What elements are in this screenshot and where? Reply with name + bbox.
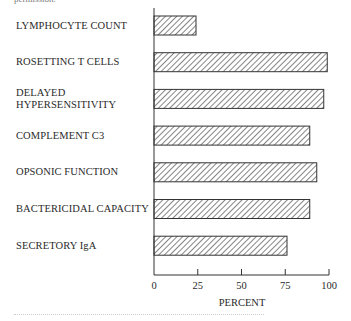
x-tick-label: 50 — [236, 280, 247, 291]
x-tick-label: 100 — [321, 280, 337, 291]
bar — [154, 16, 196, 35]
bar — [154, 89, 324, 108]
bar — [154, 126, 310, 145]
x-tick-label: 75 — [280, 280, 291, 291]
caption-fragment — [14, 314, 264, 318]
x-tick-label: 0 — [151, 280, 156, 291]
x-axis-label: PERCENT — [219, 297, 266, 308]
bar — [154, 236, 287, 255]
bar — [154, 200, 310, 219]
bar — [154, 163, 317, 182]
bar — [154, 53, 327, 72]
bar-chart — [0, 0, 351, 321]
x-tick-label: 25 — [193, 280, 204, 291]
